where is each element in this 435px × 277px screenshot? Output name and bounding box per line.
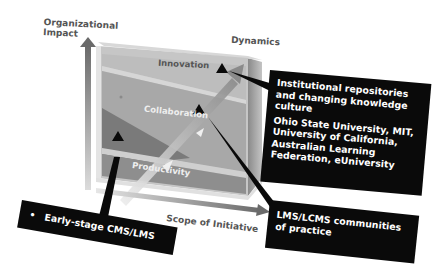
callout-innovation: Institutional repositories and changing … — [260, 70, 431, 196]
y-axis-label: Organizational Impact — [43, 17, 118, 41]
callout-innovation-examples: Ohio State University, MIT, University o… — [270, 114, 419, 173]
bullet-icon: • — [29, 209, 37, 221]
vertical-axis-arrow — [80, 37, 96, 190]
